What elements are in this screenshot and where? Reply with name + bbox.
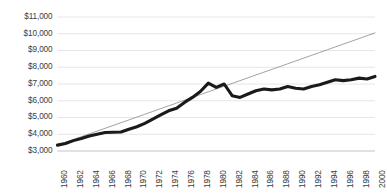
- x-tick-label: 1964: [93, 170, 101, 188]
- series-line-actual: [58, 76, 376, 145]
- x-tick-label: 1986: [267, 170, 275, 188]
- series-line-trend: [58, 33, 376, 145]
- x-tick-label: 1984: [252, 170, 260, 188]
- y-tick-label: $5,000: [28, 113, 52, 121]
- x-tick-label: 1960: [61, 170, 69, 188]
- x-tick-label: 1966: [109, 170, 117, 188]
- x-tick-label: 2000: [379, 170, 387, 188]
- line-chart: $11,000$10,000$9,000$8,000$7,000$6,000$5…: [0, 0, 387, 193]
- y-tick-label: $7,000: [28, 80, 52, 88]
- y-tick-label: $11,000: [24, 13, 52, 21]
- x-tick-label: 1994: [331, 170, 339, 188]
- x-tick-label: 1962: [77, 170, 85, 188]
- data-series: [58, 33, 376, 145]
- chart-plot-svg: [0, 0, 387, 193]
- y-tick-label: $6,000: [28, 97, 52, 105]
- x-tick-label: 1996: [347, 170, 355, 188]
- gridlines: [58, 17, 376, 151]
- x-tick-label: 1976: [188, 170, 196, 188]
- x-tick-label: 1998: [363, 170, 371, 188]
- y-tick-label: $9,000: [28, 46, 52, 54]
- y-tick-label: $8,000: [28, 63, 52, 71]
- x-tick-label: 1978: [204, 170, 212, 188]
- x-tick-label: 1972: [156, 170, 164, 188]
- y-tick-label: $4,000: [28, 130, 52, 138]
- y-tick-label: $10,000: [24, 30, 53, 38]
- y-tick-label: $3,000: [28, 147, 52, 155]
- x-tick-label: 1980: [220, 170, 228, 188]
- x-tick-label: 1968: [125, 170, 133, 188]
- x-tick-label: 1992: [315, 170, 323, 188]
- x-tick-label: 1988: [283, 170, 291, 188]
- x-tick-label: 1990: [299, 170, 307, 188]
- x-tick-label: 1974: [172, 170, 180, 188]
- x-tick-label: 1982: [236, 170, 244, 188]
- x-tick-label: 1970: [140, 170, 148, 188]
